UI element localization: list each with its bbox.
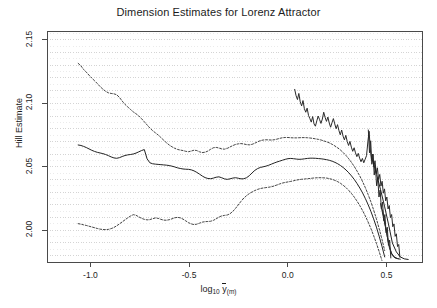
y-tick-label: 2.10 (24, 89, 34, 115)
x-tick-label: -1.0 (73, 270, 107, 280)
chart-canvas: Dimension Estimates for Lorenz Attractor… (0, 0, 437, 308)
x-tick-label: -0.5 (172, 270, 206, 280)
series-line (78, 63, 385, 250)
x-tick-label: 0.5 (369, 270, 403, 280)
y-tick-label: 2.15 (24, 26, 34, 52)
series-line (295, 89, 400, 257)
x-tick-label: 0.0 (271, 270, 305, 280)
y-tick-label: 2.00 (24, 216, 34, 242)
series-line (78, 178, 382, 261)
series-line (78, 145, 385, 257)
plot-area (0, 0, 437, 308)
y-tick-label: 2.05 (24, 153, 34, 179)
